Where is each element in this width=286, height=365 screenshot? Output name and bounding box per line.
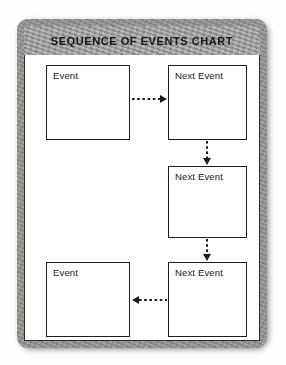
arrow-left-dotted-icon: [132, 294, 167, 306]
arrow-shaft: [132, 98, 160, 101]
event-box-label: Next Event: [175, 171, 223, 182]
arrow-shaft: [206, 239, 209, 254]
arrow-head: [203, 158, 211, 165]
event-box-row2-col2[interactable]: Next Event: [168, 166, 247, 238]
arrow-head: [132, 296, 139, 304]
arrow-down-dotted-icon: [197, 239, 217, 261]
event-box-row3-col1[interactable]: Event: [46, 262, 130, 337]
event-box-row3-col2[interactable]: Next Event: [168, 262, 247, 337]
arrow-head: [160, 95, 167, 103]
event-box-label: Event: [53, 267, 78, 278]
event-box-label: Next Event: [175, 267, 223, 278]
event-box-label: Event: [53, 70, 78, 81]
page-title: SEQUENCE OF EVENTS CHART: [51, 35, 233, 47]
event-box-row1-col1[interactable]: Event: [46, 65, 130, 140]
scanned-page: SEQUENCE OF EVENTS CHART Event Next Even…: [0, 0, 286, 365]
sequence-chart-area: Event Next Event Next Event Event Next E…: [24, 55, 260, 341]
arrow-shaft: [139, 299, 167, 302]
arrow-right-dotted-icon: [132, 93, 167, 105]
chart-title-band: SEQUENCE OF EVENTS CHART: [24, 26, 260, 55]
arrow-shaft: [206, 141, 209, 158]
event-box-label: Next Event: [175, 70, 223, 81]
event-box-row1-col2[interactable]: Next Event: [168, 65, 247, 140]
arrow-head: [203, 254, 211, 261]
arrow-down-dotted-icon: [197, 141, 217, 165]
